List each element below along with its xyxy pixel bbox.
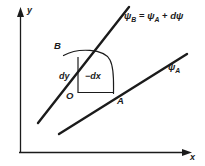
plus-operator: + bbox=[162, 10, 168, 21]
point-label-b: B bbox=[54, 41, 61, 51]
dy-label: dy bbox=[59, 72, 70, 81]
psi-b-equation-label: ψB = ψA + dψ bbox=[124, 11, 183, 24]
y-axis-label: y bbox=[27, 6, 32, 15]
equals-operator: = bbox=[139, 10, 145, 21]
psi-a-subscript: A bbox=[175, 67, 180, 74]
psi-a-subscript-eq: A bbox=[154, 16, 159, 23]
psi-b-streamline bbox=[38, 7, 129, 123]
point-label-o: O bbox=[66, 91, 73, 101]
psi-a-curve-label: ψA bbox=[168, 62, 180, 75]
x-axis-label: x bbox=[190, 153, 195, 162]
dx-label: −dx bbox=[85, 72, 101, 81]
y-axis-arrowhead bbox=[17, 7, 24, 17]
x-axis-group bbox=[19, 149, 192, 156]
psi-b-subscript: B bbox=[131, 16, 136, 23]
y-axis-group bbox=[17, 7, 24, 152]
figure-container: y x B A O dy −dx ψB = ψA + dψ ψA bbox=[0, 0, 205, 166]
dpsi-term: dψ bbox=[170, 10, 183, 21]
diagram-canvas bbox=[0, 0, 205, 166]
point-label-a: A bbox=[117, 96, 124, 106]
